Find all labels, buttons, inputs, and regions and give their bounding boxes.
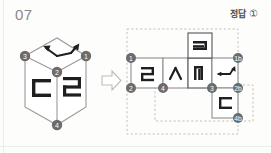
cube-diagram: ↖↘↗ ㄷ ㄹ 1: [20, 38, 91, 130]
net-vertex-1-left: 1: [126, 53, 136, 63]
net-vertex-2-right: 2b: [233, 83, 243, 93]
net-vertex-4-mid: 4: [158, 83, 168, 93]
net-cell-f: [212, 88, 238, 118]
net-cell-e: [212, 58, 238, 88]
cube-vertex-1: 1: [81, 51, 91, 61]
cube-vertex-1-label: 1: [84, 53, 88, 60]
net-vertex-2-left-label: 2: [129, 85, 133, 92]
net-vertex-4-right: 4b: [233, 113, 243, 123]
figure-canvas: ↖↘↗ ㄷ ㄹ 1: [0, 0, 271, 153]
net-vertex-3: 3: [207, 83, 217, 93]
net-cell-b: [163, 58, 188, 88]
net-vertex-4-right-label: 4b: [234, 115, 242, 122]
net-vertex-2-left: 2: [126, 83, 136, 93]
net-cell-d-symbol: [194, 66, 203, 80]
cube-face-right-symbol: [63, 77, 81, 97]
cube-vertex-3-label: 3: [23, 53, 27, 60]
cube-vertex-4-label: 4: [55, 122, 59, 129]
problem-page: 07 정답 ① ↖↘↗: [0, 0, 271, 153]
cube-vertex-4: 4: [52, 120, 62, 130]
cube-vertex-2: 2: [52, 67, 62, 77]
net-cell-c-symbol: [193, 41, 207, 50]
cube-vertex-3: 3: [20, 51, 30, 61]
net-vertex-3-label: 3: [210, 85, 214, 92]
net-vertex-1-left-label: 1: [129, 55, 133, 62]
net-vertex-2-right-label: 2b: [234, 85, 242, 92]
net-vertex-4-mid-label: 4: [161, 85, 165, 92]
right-arrow-outline-icon: [102, 71, 121, 90]
net-vertex-1-right-label: 1b: [234, 55, 242, 62]
net-cell-a-symbol: [141, 67, 154, 81]
cube-vertex-2-label: 2: [55, 69, 59, 76]
net-diagram: ㄹ ㅅ ㅋ ㅋ: [126, 29, 253, 134]
net-vertex-1-right: 1b: [233, 53, 243, 63]
